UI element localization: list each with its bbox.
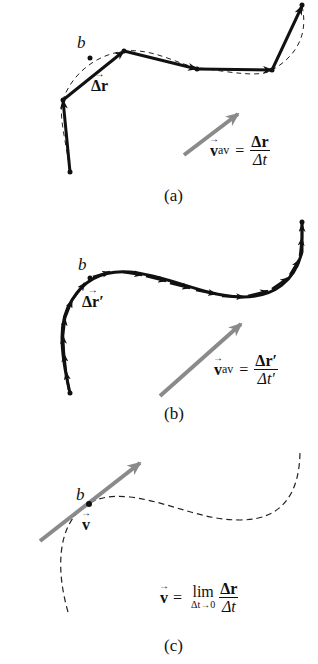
average-velocity-equation-b: v av = Δr′ Δt′ (214, 352, 278, 387)
equation-lhs-b: v (214, 361, 222, 379)
limit-operator: lim Δt→0 (191, 585, 215, 611)
displacement-arrow-5 (272, 6, 302, 70)
average-velocity-equation-a: v av = Δr Δt (210, 133, 270, 168)
numerator-b: Δr′ (254, 352, 278, 370)
denominator-a: Δt (253, 151, 267, 168)
velocity-label-c: v (82, 516, 90, 534)
displacement-arrow-4 (197, 69, 272, 70)
fraction-a: Δr Δt (250, 133, 269, 168)
caption-a: (a) (164, 186, 183, 206)
numerator-a: Δr (250, 133, 269, 151)
fraction-b: Δr′ Δt′ (254, 352, 278, 387)
equation-lhs-c: v (160, 589, 168, 607)
denominator-b: Δt′ (258, 370, 275, 387)
caption-c: (c) (164, 636, 183, 656)
point-b-label-c: b (76, 485, 85, 505)
instantaneous-velocity-equation: v = lim Δt→0 Δr Δt (160, 580, 238, 615)
point-b-label-b: b (78, 255, 87, 275)
caption-b: (b) (164, 404, 184, 424)
point-b-label-a: b (77, 33, 86, 53)
displacement-label-a: Δr (91, 77, 108, 95)
fraction-c: Δr Δt (219, 580, 238, 615)
diagram-graphics (0, 0, 318, 664)
denominator-c: Δt (222, 598, 236, 615)
equation-subscript-a: av (218, 143, 229, 158)
limit-subscript: Δt→0 (191, 598, 215, 611)
equation-subscript-b: av (222, 362, 233, 377)
equation-lhs-a: v (210, 142, 218, 160)
displacement-label-b: Δr′ (82, 293, 104, 311)
point-b-a (88, 56, 93, 61)
point-b-b (88, 276, 93, 281)
displacement-arrow-3 (124, 51, 197, 69)
numerator-c: Δr (219, 580, 238, 598)
velocity-diagram-figure: b Δr v av = Δr Δt (a) b Δr′ v av = Δr′ Δ… (0, 0, 318, 664)
